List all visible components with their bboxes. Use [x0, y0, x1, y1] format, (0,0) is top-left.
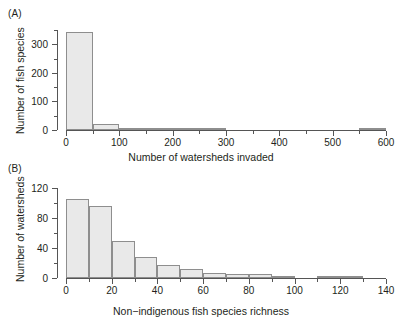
panel-a-plot-area — [66, 30, 386, 130]
panel-a-x-tick-minor — [306, 131, 307, 134]
panel-a-x-tick — [333, 131, 334, 136]
panel-b-y-tick-minor — [54, 263, 57, 264]
panel-a-x-tick — [279, 131, 280, 136]
panel-b-x-axis-title: Non−indigenous fish species richness — [0, 305, 402, 317]
panel-a-x-tick-minor — [93, 131, 94, 134]
panel-a-x-tick — [66, 131, 67, 136]
panel-a-x-tick-minor — [146, 131, 147, 134]
panel-a-x-tick-label: 200 — [164, 137, 181, 148]
panel-b-x-tick-minor — [89, 279, 90, 282]
panel-b-x-tick — [203, 279, 204, 284]
panel-b-y-tick-minor — [54, 233, 57, 234]
histogram-bar — [89, 206, 112, 278]
panel-b-y-tick-label: 0 — [18, 273, 48, 284]
panel-b-x-tick — [66, 279, 67, 284]
panel-b-x-tick — [249, 279, 250, 284]
panel-a-x-tick-label: 0 — [63, 137, 69, 148]
histogram-bar — [112, 241, 135, 279]
panel-b-label: (B) — [8, 163, 22, 174]
panel-b-x-tick-label: 80 — [243, 285, 254, 296]
histogram-bar — [66, 32, 93, 130]
panel-b-plot-area — [66, 188, 386, 278]
panel-a-x-tick — [119, 131, 120, 136]
panel-b-x-tick-minor — [180, 279, 181, 282]
panel-b-x-tick-label: 20 — [106, 285, 117, 296]
panel-a-x-tick-label: 400 — [271, 137, 288, 148]
panel-a-y-tick — [52, 73, 57, 74]
panel-a-y-axis-line — [57, 30, 58, 130]
panel-a-x-tick — [226, 131, 227, 136]
panel-b-x-tick-minor — [363, 279, 364, 282]
panel-a-y-tick-label: 200 — [18, 67, 48, 78]
panel-b-x-tick — [112, 279, 113, 284]
panel-b-y-tick — [52, 278, 57, 279]
panel-a-y-tick — [52, 101, 57, 102]
panel-b-x-tick — [340, 279, 341, 284]
panel-a-y-tick — [52, 44, 57, 45]
panel-a: (A) Number of fish species 0100200300400… — [0, 0, 402, 170]
panel-b-bars — [66, 188, 386, 278]
panel-b-x-tick-label: 100 — [286, 285, 303, 296]
panel-a-y-tick-label: 0 — [18, 125, 48, 136]
panel-b-x-tick-label: 120 — [332, 285, 349, 296]
panel-a-x-tick — [386, 131, 387, 136]
panel-b-y-tick — [52, 248, 57, 249]
panel-b-x-tick-label: 0 — [63, 285, 69, 296]
panel-b-y-tick — [52, 188, 57, 189]
panel-b-y-tick-label: 80 — [18, 213, 48, 224]
panel-a-x-tick-label: 300 — [218, 137, 235, 148]
panel-b-x-tick-minor — [135, 279, 136, 282]
panel-a-y-tick-minor — [54, 30, 57, 31]
panel-b-y-tick-minor — [54, 203, 57, 204]
panel-a-x-tick-minor — [199, 131, 200, 134]
panel-a-y-tick-label: 300 — [18, 39, 48, 50]
histogram-bar — [135, 257, 158, 278]
panel-a-y-tick-minor — [54, 87, 57, 88]
panel-b-y-tick-label: 120 — [18, 183, 48, 194]
panel-b-x-tick-label: 140 — [378, 285, 395, 296]
panel-a-y-tick-minor — [54, 116, 57, 117]
panel-b-x-tick-minor — [317, 279, 318, 282]
histogram-bar — [157, 265, 180, 279]
panel-a-x-axis-title: Number of watersheds invaded — [0, 151, 402, 163]
panel-a-bars — [66, 30, 386, 130]
panel-b-x-tick-minor — [226, 279, 227, 282]
panel-a-x-tick-minor — [359, 131, 360, 134]
panel-b-x-tick-minor — [272, 279, 273, 282]
panel-a-x-tick — [173, 131, 174, 136]
panel-b-y-axis-line — [57, 188, 58, 278]
panel-a-y-tick-minor — [54, 59, 57, 60]
panel-b-y-tick-label: 40 — [18, 243, 48, 254]
panel-a-y-tick-label: 100 — [18, 96, 48, 107]
panel-b-x-tick-label: 60 — [198, 285, 209, 296]
panel-b-x-tick — [157, 279, 158, 284]
figure-container: (A) Number of fish species 0100200300400… — [0, 0, 402, 333]
panel-a-x-tick-label: 600 — [378, 137, 395, 148]
panel-a-label: (A) — [8, 8, 22, 19]
panel-b-x-tick-label: 40 — [152, 285, 163, 296]
panel-a-x-tick-minor — [253, 131, 254, 134]
histogram-bar — [66, 199, 89, 278]
panel-b-y-tick — [52, 218, 57, 219]
panel-a-y-tick — [52, 130, 57, 131]
histogram-bar — [180, 269, 203, 278]
panel-a-x-tick-label: 500 — [324, 137, 341, 148]
panel-b: (B) Number of watersheds 020406080100120… — [0, 163, 402, 333]
panel-b-x-tick — [386, 279, 387, 284]
panel-a-x-tick-label: 100 — [111, 137, 128, 148]
panel-b-x-tick — [295, 279, 296, 284]
